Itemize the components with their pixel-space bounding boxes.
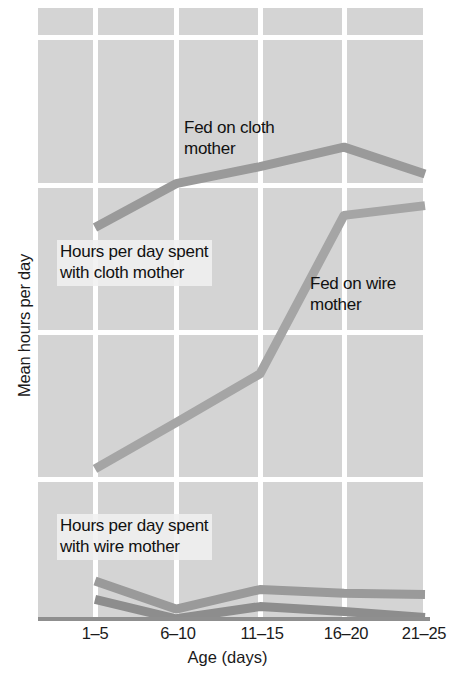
x-tick-label-11-15: 11–15 (240, 624, 283, 643)
x-tick-label-1-5: 1–5 (82, 624, 109, 643)
plot-area: Fed on cloth mother Hours per day spent … (38, 8, 428, 620)
x-axis-title: Age (days) (0, 648, 455, 667)
x-tick-label-6-10: 6–10 (160, 624, 196, 643)
chart-figure: Mean hours per day 24 18 12 6 Fed on clo… (0, 0, 455, 674)
x-axis-tick-labels: 1–5 6–10 11–15 16–20 21–25 (38, 624, 430, 650)
annotation-fed-on-cloth-mother: Fed on cloth mother (184, 118, 275, 159)
annotation-fed-on-wire-mother: Fed on wire mother (310, 274, 396, 315)
y-axis-title: Mean hours per day (15, 176, 34, 476)
x-tick-label-21-25: 21–25 (402, 624, 446, 643)
x-axis-line (38, 617, 430, 621)
annotation-hours-with-wire-mother: Hours per day spent with wire mother (57, 514, 212, 560)
annotation-hours-with-cloth-mother: Hours per day spent with cloth mother (57, 240, 212, 286)
x-tick-label-16-20: 16–20 (324, 624, 368, 643)
